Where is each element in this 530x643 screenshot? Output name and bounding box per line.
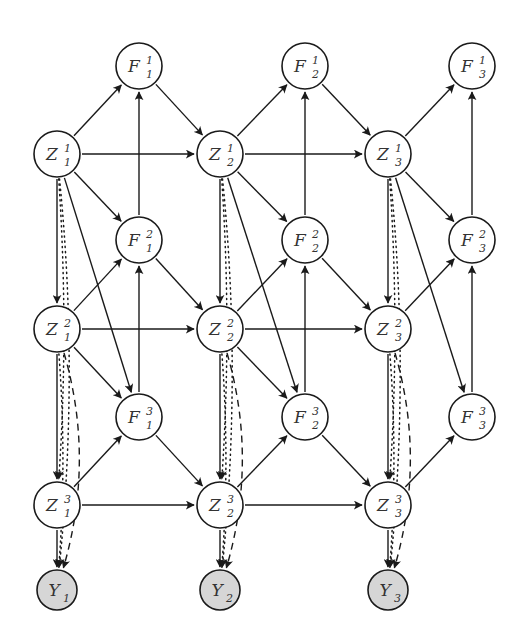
node-subscript: 1	[64, 156, 71, 169]
node-superscript: 2	[145, 228, 153, 241]
node-subscript: 2	[311, 242, 319, 255]
edge-Z1_1-to-F1_3-solid	[64, 178, 131, 392]
node-Z2_1: Z12	[197, 131, 243, 177]
node-label: Z	[208, 495, 222, 515]
node-Z1_2: Z21	[34, 306, 80, 352]
node-subscript: 3	[394, 592, 401, 605]
edge-Z1_2-to-F1_3-solid	[74, 347, 121, 398]
node-Z3_1: Z13	[365, 131, 411, 177]
node-label: F	[293, 230, 307, 250]
node-label: F	[460, 56, 474, 76]
node-Y1: Y1	[37, 570, 77, 610]
node-superscript: 1	[64, 142, 71, 155]
edge-Z2_1-to-F2_1-solid	[237, 85, 287, 136]
node-F3_1: F13	[449, 43, 495, 89]
node-subscript: 3	[479, 68, 486, 81]
node-superscript: 3	[479, 405, 486, 418]
node-superscript: 3	[64, 493, 71, 506]
node-superscript: 3	[146, 405, 153, 418]
node-label: Z	[376, 144, 390, 164]
node-F2_3: F32	[282, 394, 328, 440]
node-superscript: 3	[312, 405, 319, 418]
node-F2_1: F12	[282, 43, 328, 89]
node-subscript: 3	[395, 507, 402, 520]
edge-Z1_3-to-F1_3-solid	[74, 436, 121, 487]
node-label: Z	[45, 319, 59, 339]
node-subscript: 2	[311, 68, 319, 81]
node-superscript: 3	[395, 493, 402, 506]
node-label: Z	[376, 319, 390, 339]
node-superscript: 2	[63, 317, 71, 330]
node-label: F	[460, 407, 474, 427]
node-Y2: Y2	[200, 570, 240, 610]
edge-F1_3-to-Z2_3-solid	[156, 435, 203, 486]
edge-Z1_1-to-F1_2-solid	[74, 172, 121, 221]
node-subscript: 3	[479, 419, 486, 432]
node-subscript: 2	[226, 507, 234, 520]
edge-F2_2-to-Z3_2-solid	[322, 258, 370, 310]
edge-Z2_2-to-F2_3-solid	[237, 347, 287, 398]
node-F3_3: F33	[449, 394, 495, 440]
node-label: Z	[208, 144, 222, 164]
node-superscript: 1	[312, 54, 319, 67]
edge-Z2_1-to-F2_3-solid	[228, 178, 297, 392]
edge-Z2_1-to-F2_2-solid	[238, 172, 287, 222]
node-Z1_1: Z11	[34, 131, 80, 177]
node-label: Y	[379, 580, 392, 600]
node-superscript: 1	[395, 142, 402, 155]
node-superscript: 2	[478, 228, 486, 241]
node-label: Z	[45, 144, 59, 164]
node-subscript: 1	[146, 419, 153, 432]
nodes-layer: F11F12F13Z11Z12Z13F21F22F23Z21Z22Z23F31F…	[34, 43, 495, 610]
node-label: Y	[211, 580, 224, 600]
node-label: Z	[208, 319, 222, 339]
node-superscript: 2	[226, 317, 234, 330]
node-subscript: 3	[395, 331, 402, 344]
node-label: F	[293, 56, 307, 76]
node-subscript: 1	[146, 68, 153, 81]
node-label: F	[127, 230, 141, 250]
node-Z2_2: Z22	[197, 306, 243, 352]
edge-F1_2-to-Z2_2-solid	[156, 259, 203, 310]
node-Z3_3: Z33	[365, 482, 411, 528]
node-subscript: 2	[311, 419, 319, 432]
node-subscript: 1	[146, 242, 153, 255]
node-superscript: 2	[394, 317, 402, 330]
node-label: F	[460, 230, 474, 250]
node-subscript: 2	[225, 592, 233, 605]
node-F1_2: F21	[116, 217, 162, 263]
node-subscript: 2	[226, 156, 234, 169]
node-subscript: 1	[64, 331, 71, 344]
edge-F2_1-to-Z3_1-solid	[322, 84, 370, 135]
edge-F2_3-to-Z3_3-solid	[322, 435, 370, 486]
edge-Z2_2-to-Y2-dashed	[226, 353, 242, 568]
edge-Z2_3-to-F2_3-solid	[237, 436, 287, 487]
node-subscript: 1	[63, 592, 70, 605]
node-label: F	[293, 407, 307, 427]
edge-Z3_1-to-F3_2-solid	[406, 172, 454, 222]
node-superscript: 2	[311, 228, 319, 241]
edge-Z3_1-to-F3_3-solid	[396, 178, 465, 392]
node-subscript: 3	[395, 156, 402, 169]
edge-Z3_2-to-Y3-dashed	[394, 353, 410, 568]
node-F3_2: F23	[449, 217, 495, 263]
node-superscript: 1	[479, 54, 486, 67]
node-Z2_3: Z32	[197, 482, 243, 528]
node-superscript: 3	[227, 493, 234, 506]
node-F1_1: F11	[116, 43, 162, 89]
edge-Z3_3-to-F3_3-solid	[405, 436, 454, 487]
graphical-model-diagram: F11F12F13Z11Z12Z13F21F22F23Z21Z22Z23F31F…	[0, 0, 530, 643]
node-subscript: 2	[226, 331, 234, 344]
node-label: Z	[376, 495, 390, 515]
node-superscript: 1	[227, 142, 234, 155]
edge-Z1_1-to-F1_1-solid	[74, 85, 121, 136]
node-Z3_2: Z23	[365, 306, 411, 352]
node-subscript: 3	[479, 242, 486, 255]
edge-Z3_1-to-F3_1-solid	[405, 85, 454, 136]
node-superscript: 1	[146, 54, 153, 67]
node-subscript: 1	[64, 507, 71, 520]
node-label: Z	[45, 495, 59, 515]
edge-F1_1-to-Z2_1-solid	[156, 84, 203, 134]
node-F1_3: F31	[116, 394, 162, 440]
edge-Z1_2-to-Y1-dashed	[63, 353, 79, 568]
